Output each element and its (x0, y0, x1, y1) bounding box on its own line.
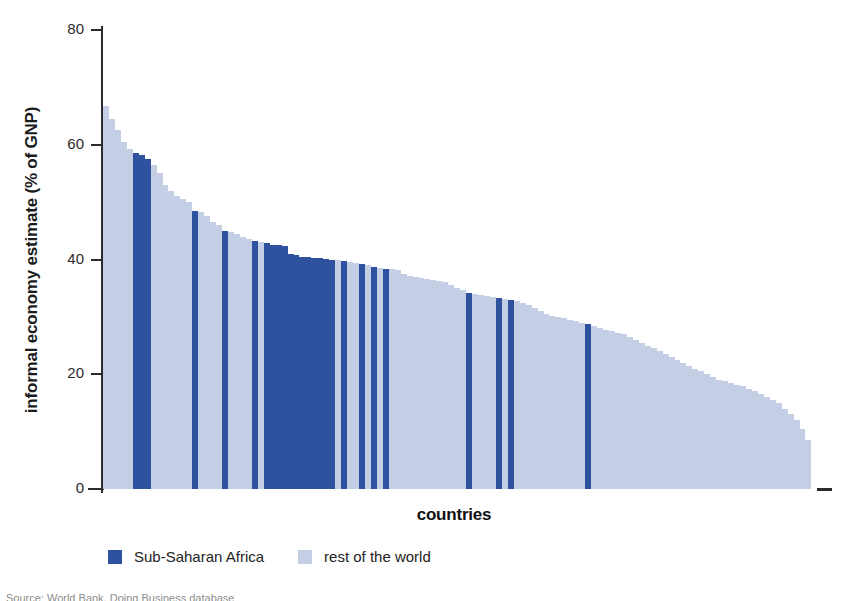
y-tick-label-20: 20 (38, 364, 84, 381)
legend: Sub-Saharan Africarest of the world (108, 548, 431, 565)
y-tick-label-60: 60 (38, 135, 84, 152)
source-note: Source: World Bank, Doing Business datab… (6, 592, 234, 601)
legend-label-ssa: Sub-Saharan Africa (134, 548, 264, 565)
plot-area (103, 30, 812, 489)
legend-item-ssa[interactable]: Sub-Saharan Africa (108, 548, 264, 565)
legend-swatch-row (298, 550, 312, 564)
y-tick-40 (91, 259, 101, 261)
legend-swatch-ssa (108, 550, 122, 564)
legend-item-row[interactable]: rest of the world (298, 548, 431, 565)
y-tick-0 (88, 488, 104, 490)
x-axis-label-text: countries (357, 505, 492, 524)
y-tick-60 (91, 144, 101, 146)
y-tick-80 (91, 29, 101, 31)
x-axis-label: countries (0, 505, 848, 525)
legend-label-row: rest of the world (324, 548, 431, 565)
x-axis-end-tick (817, 488, 832, 491)
y-tick-20 (91, 373, 101, 375)
y-tick-label-40: 40 (38, 250, 84, 267)
y-tick-label-80: 80 (38, 20, 84, 37)
bar (805, 440, 811, 489)
bar-series (103, 30, 812, 489)
chart-figure: informal economy estimate (% of GNP) 806… (0, 0, 848, 601)
y-tick-label-0: 0 (38, 479, 84, 496)
